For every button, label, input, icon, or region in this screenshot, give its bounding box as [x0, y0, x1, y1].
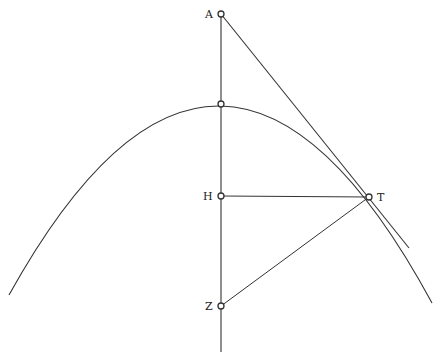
- ordinate-line: [221, 196, 369, 197]
- point-vertex: [218, 101, 224, 107]
- parabola-diagram: A H T Z: [0, 0, 443, 364]
- label-T: T: [377, 191, 385, 204]
- point-Z: [218, 303, 224, 309]
- label-H: H: [203, 190, 213, 203]
- point-T: [366, 194, 372, 200]
- point-H: [218, 193, 224, 199]
- tangent-line: [221, 14, 409, 248]
- label-Z: Z: [205, 300, 213, 313]
- point-A: [218, 11, 224, 17]
- normal-line: [221, 197, 369, 306]
- label-A: A: [204, 8, 214, 21]
